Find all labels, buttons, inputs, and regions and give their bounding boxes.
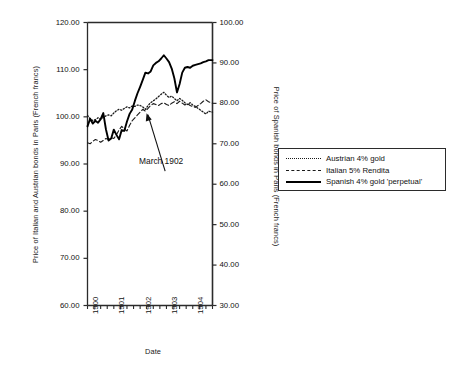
legend-item-label: Spanish 4% gold 'perpetual' [326, 177, 422, 186]
right-axis-tick-label: 50.00 [220, 220, 264, 229]
left-axis-tick-label: 120.00 [36, 18, 80, 27]
left-axis-tick-label: 90.00 [36, 159, 80, 168]
x-axis-title: Date [88, 347, 218, 356]
annotation-label: March 1902 [139, 156, 183, 166]
legend-item-label: Italian 5% Rendita [326, 166, 389, 175]
legend-item: Spanish 4% gold 'perpetual' [279, 176, 445, 188]
legend-item: Italian 5% Rendita [279, 165, 445, 177]
right-axis-tick-label: 100.00 [220, 18, 264, 27]
legend-line-sample-solid-icon [286, 178, 321, 185]
left-axis-title: Price of Italian and Austrian bonds in P… [31, 35, 40, 295]
x-axis-tick-label: 1900 [91, 296, 100, 313]
left-axis-tick-label: 100.00 [36, 112, 80, 121]
x-axis-tick-label: 1904 [196, 296, 205, 313]
legend-item-label: Austrian 4% gold [326, 154, 385, 163]
right-axis-tick-label: 90.00 [220, 58, 264, 67]
chart-legend: Austrian 4% gold Italian 5% Rendita Span… [278, 148, 446, 191]
legend-item: Austrian 4% gold [279, 153, 445, 165]
right-axis-tick-label: 70.00 [220, 139, 264, 148]
x-axis-tick-label: 1902 [144, 296, 153, 313]
legend-line-sample-dotted-icon [286, 155, 321, 162]
legend-line-sample-dashed-icon [286, 167, 321, 174]
right-axis-tick-label: 60.00 [220, 179, 264, 188]
left-axis-tick-label: 60.00 [36, 301, 80, 310]
chart-figure: 60.0070.0080.0090.00100.00110.00120.0030… [0, 0, 454, 379]
data-series [88, 55, 213, 143]
x-axis-tick-label: 1903 [170, 296, 179, 313]
right-axis-tick-label: 80.00 [220, 98, 264, 107]
right-axis-tick-label: 30.00 [220, 301, 264, 310]
right-axis-tick-label: 40.00 [220, 260, 264, 269]
left-axis-tick-label: 70.00 [36, 253, 80, 262]
left-axis-tick-label: 110.00 [36, 65, 80, 74]
series-line [88, 55, 213, 140]
x-axis-tick-label: 1901 [117, 296, 126, 313]
left-axis-tick-label: 80.00 [36, 206, 80, 215]
